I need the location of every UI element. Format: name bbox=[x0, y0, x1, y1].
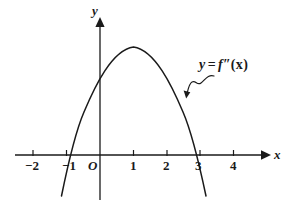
curve-equation-label: y=f″(x) bbox=[199, 58, 248, 72]
callout-leader-line bbox=[187, 76, 215, 96]
parabola-curve bbox=[62, 47, 207, 196]
function-graph-figure: x y O −2 −1 1 2 3 4 y=f″(x) bbox=[0, 0, 292, 221]
curve-label-y: y bbox=[199, 57, 206, 72]
x-tick-label-3: 3 bbox=[195, 159, 202, 172]
x-tick-label-1: 1 bbox=[130, 159, 137, 172]
x-tick-label-minus1: −1 bbox=[62, 159, 76, 172]
x-tick-label-minus2: −2 bbox=[25, 159, 39, 172]
curve-label-primes: ″ bbox=[223, 57, 231, 72]
curve-label-equals: = bbox=[206, 57, 218, 72]
y-axis-label: y bbox=[92, 4, 98, 17]
x-axis-label: x bbox=[274, 148, 281, 161]
callout-arrowhead bbox=[184, 91, 191, 99]
origin-label: O bbox=[88, 159, 97, 172]
y-axis-arrowhead bbox=[95, 17, 104, 27]
x-tick-label-4: 4 bbox=[230, 159, 237, 172]
plot-canvas bbox=[0, 0, 292, 221]
curve-label-argument: (x) bbox=[231, 57, 249, 72]
x-tick-label-2: 2 bbox=[163, 159, 170, 172]
x-axis-arrowhead bbox=[261, 150, 271, 160]
